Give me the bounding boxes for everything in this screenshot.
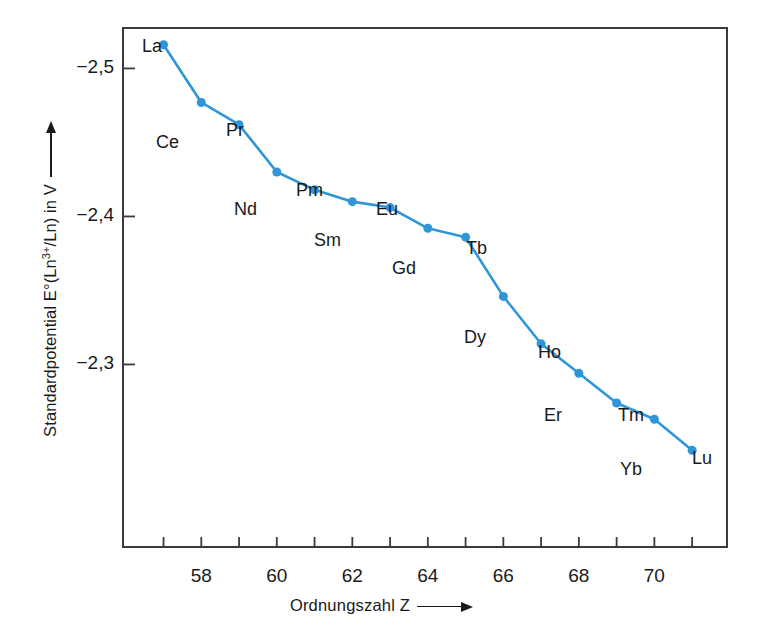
point-label-yb: Yb [620,459,642,480]
point-label-tb: Tb [466,238,487,259]
point-label-gd: Gd [392,258,416,279]
point-label-er: Er [544,405,562,426]
x-axis-title-text: Ordnungszahl Z [290,596,473,614]
x-axis-arrow-icon [417,602,473,612]
point-label-ho: Ho [538,342,561,363]
y-tick-label: −2,4 [56,204,114,226]
x-axis-title-label: Ordnungszahl Z [290,596,410,614]
point-label-nd: Nd [234,199,257,220]
point-label-dy: Dy [464,327,486,348]
y-axis-title-suffix: /Ln) in V [41,184,59,246]
chart-figure: −2,5−2,4−2,3 58606264666870 LaCePrNdPmSm… [0,0,763,638]
y-axis-title-text: Standardpotential E°(Ln3+/Ln) in V [41,121,60,437]
y-axis-title-superscript: 3+ [39,246,51,259]
x-tick-label: 70 [634,565,674,587]
y-axis-title: Standardpotential E°(Ln3+/Ln) in V [36,19,64,539]
y-axis-arrow-icon [46,121,56,177]
y-axis-title-prefix: Standardpotential E°(Ln [41,259,59,437]
point-label-ce: Ce [156,132,179,153]
point-label-tm: Tm [618,405,644,426]
x-tick-label: 60 [257,565,297,587]
point-label-sm: Sm [314,230,341,251]
x-tick-label: 64 [408,565,448,587]
point-label-pm: Pm [296,180,323,201]
x-tick-label: 68 [559,565,599,587]
point-label-lu: Lu [692,448,712,469]
x-tick-label: 58 [181,565,221,587]
point-label-eu: Eu [376,199,398,220]
x-tick-label: 62 [332,565,372,587]
x-tick-label: 66 [483,565,523,587]
x-axis-title: Ordnungszahl Z [0,596,763,615]
point-label-la: La [142,36,162,57]
y-tick-label: −2,5 [56,56,114,78]
y-tick-label: −2,3 [56,352,114,374]
point-label-pr: Pr [226,120,244,141]
